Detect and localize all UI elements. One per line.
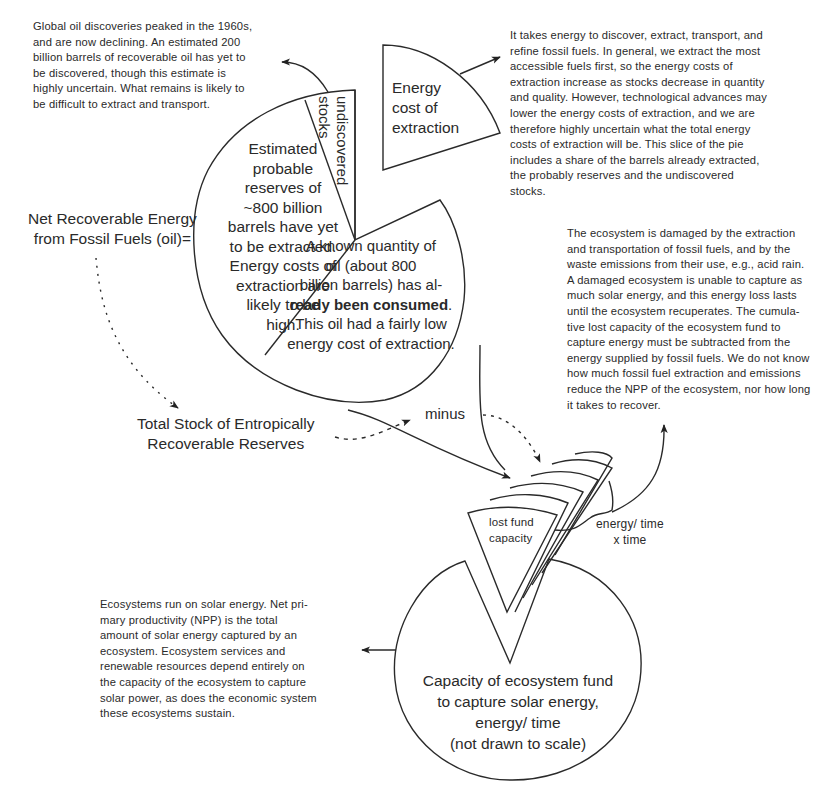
label-energy-time: energy/ time x time (596, 517, 664, 548)
arrow-to-energy-note (460, 57, 500, 74)
note-ecosystem-damage: The ecosystem is damaged by the extracti… (567, 226, 810, 413)
slice-energy-cost-label: Energy cost of extraction (392, 78, 459, 138)
note-npp: Ecosystems run on solar energy. Net pri-… (100, 597, 317, 722)
label-net-recoverable: Net Recoverable Energy from Fossil Fuels… (28, 209, 197, 249)
note-discoveries: Global oil discoveries peaked in the 196… (33, 19, 252, 113)
slice-consumed-label: A known quantity of oil (about 800 billi… (271, 236, 471, 353)
note-energy-cost: It takes energy to discover, extract, tr… (510, 28, 767, 200)
dotted-arrow-net-to-total (96, 258, 178, 408)
slice-stocks-label: stocks (316, 96, 333, 139)
arrow-to-discoveries (282, 62, 328, 92)
label-lost-fund: lost fund capacity (489, 514, 534, 546)
arrow-vertical-to-lost-fund (480, 345, 505, 470)
dashed-arrow-minus-to-lost (483, 415, 540, 462)
label-capacity-fund: Capacity of ecosystem fund to capture so… (413, 670, 623, 754)
label-minus: minus (425, 404, 465, 424)
label-total-stock: Total Stock of Entropically Recoverable … (137, 414, 314, 454)
arrow-energy-time-up (612, 425, 664, 512)
